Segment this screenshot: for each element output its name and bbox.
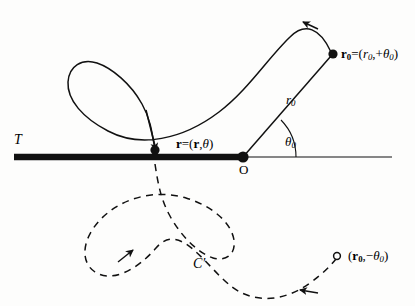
point-r0-comma-sign: ,+: [372, 46, 383, 61]
point-r-label: r=(r,θ): [176, 137, 213, 150]
branch-cut-label: T: [14, 133, 22, 147]
mirror-curve-label: C′: [193, 257, 205, 271]
origin-label: O: [239, 163, 248, 176]
point-r-close: ): [209, 136, 213, 151]
point-r0-label: r0=(r0,+θ0): [341, 47, 398, 62]
point-r-equals: =(: [182, 136, 194, 151]
branch-cut-diagram: T r0=(r0,+θ0) r=(r,θ) r0 θ0 O C′ (r0,−θ0…: [0, 0, 415, 306]
origin-point-marker: [237, 151, 248, 162]
angle-label: θ0: [285, 135, 296, 150]
contour-c-prime-dashed: [85, 164, 336, 298]
angle-sub: 0: [291, 140, 295, 150]
contour-c-arrow-top: [303, 22, 318, 29]
r0-neg-comma-sign: ,−: [363, 248, 374, 263]
contour-c-solid: [68, 29, 331, 150]
r0-neg-close: ): [384, 248, 388, 263]
r-point-marker: [150, 145, 159, 154]
contour-c-prime-arrow-bottom: [300, 290, 318, 293]
point-r0-negative-label: (r0,−θ0): [348, 249, 388, 264]
r0-point-marker: [328, 49, 337, 58]
radius-sub: 0: [291, 98, 295, 108]
point-r0-close: ): [394, 46, 398, 61]
point-r0-equals: =(: [351, 46, 363, 61]
r0-negative-point-marker: [334, 253, 341, 260]
contour-c-prime-arrow-loop: [118, 250, 133, 262]
contour-c-arrow-descending: [146, 110, 156, 150]
radius-label: r0: [286, 93, 295, 108]
